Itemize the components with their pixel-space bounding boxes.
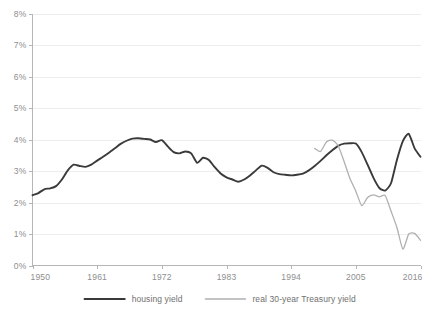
x-tick-label: 1994 [281,272,301,282]
y-tick-label: 8% [14,9,27,19]
x-tick-label: 1983 [217,272,237,282]
y-axis-tick-labels: 0%1%2%3%4%5%6%7%8% [14,9,27,271]
legend-label-0: housing yield [132,294,183,304]
data-series [33,134,421,249]
y-tick-label: 5% [14,103,27,113]
axes [29,14,422,270]
y-tick-label: 7% [14,40,27,50]
x-tick-label: 2016 [403,272,423,282]
x-tick-label: 1961 [87,272,107,282]
y-tick-label: 2% [14,198,27,208]
y-tick-label: 3% [14,166,27,176]
x-tick-label: 1972 [152,272,172,282]
y-tick-label: 4% [14,135,27,145]
yield-line-chart: 0%1%2%3%4%5%6%7%8% 195019611972198319942… [0,0,433,313]
x-tick-label: 2005 [346,272,366,282]
y-tick-label: 1% [14,229,27,239]
legend-label-1: real 30-year Treasury yield [252,294,355,304]
x-axis-tick-labels: 1950196119721983199420052016 [31,272,423,282]
y-tick-label: 0% [14,261,27,271]
series-line-housing-yield [33,134,421,195]
x-tick-label: 1950 [31,272,51,282]
gridlines [33,15,421,235]
chart-legend: housing yieldreal 30-year Treasury yield [85,294,356,304]
chart-container: 0%1%2%3%4%5%6%7%8% 195019611972198319942… [0,0,433,313]
y-tick-label: 6% [14,72,27,82]
series-line-treasury-yield [315,140,421,249]
